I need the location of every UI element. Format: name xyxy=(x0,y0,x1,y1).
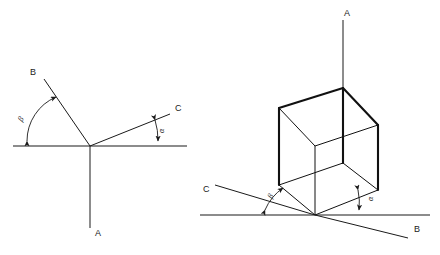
diagram-canvas: B C A β α xyxy=(0,0,440,255)
cube-edge-top-left-to-back xyxy=(279,88,343,108)
left-angle-beta-arc xyxy=(27,97,56,141)
cube-edge-bottom-front-to-right xyxy=(315,190,378,215)
right-angle-beta-label: β xyxy=(265,192,275,200)
cube-edge-bottom-left-to-front xyxy=(279,185,315,215)
left-axis-a-label: A xyxy=(95,228,101,238)
right-axis-c-line xyxy=(215,185,315,215)
left-axis-b-label: B xyxy=(30,67,36,77)
left-angle-alpha-label: α xyxy=(157,128,166,133)
right-angle-alpha-label: α xyxy=(366,196,375,201)
cube-edge-bottom-back-to-right xyxy=(343,163,378,190)
right-axis-b-line xyxy=(315,215,408,238)
left-angle-beta-label: β xyxy=(15,115,25,124)
cube-edge-top-left-to-front xyxy=(279,108,315,146)
right-axis-b-label: B xyxy=(414,224,420,234)
cube-edge-bottom-left-to-back xyxy=(279,163,343,185)
right-axis-a-label: A xyxy=(344,8,350,18)
left-axis-c-label: C xyxy=(175,103,182,113)
cube-edge-top-back-to-right xyxy=(343,88,378,125)
isometric-cube-axis-diagram: A C B β α xyxy=(200,8,430,238)
right-angle-alpha-arc xyxy=(358,190,359,210)
left-axis-b-line xyxy=(44,79,90,146)
figure-root: B C A β α xyxy=(0,0,440,255)
right-axis-c-label: C xyxy=(203,184,210,194)
planar-axis-diagram: B C A β α xyxy=(13,67,187,238)
cube-edge-front-to-top-right xyxy=(315,125,378,146)
